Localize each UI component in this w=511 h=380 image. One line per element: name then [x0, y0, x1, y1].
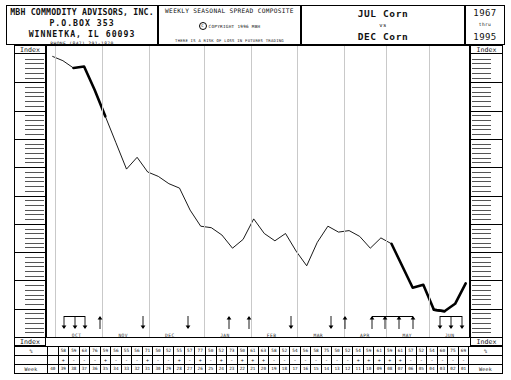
week-cell: 14: [322, 365, 333, 373]
percent-cell: 61: [396, 347, 407, 355]
percent-cell: 60: [438, 347, 449, 355]
scale-minor-tick: [25, 304, 44, 305]
scale-minor-tick: [472, 68, 491, 69]
sign-cell: -: [311, 356, 322, 364]
scale-minor-tick: [25, 332, 44, 333]
seasonal-down-arrow: [61, 316, 67, 329]
percent-cell: 63: [259, 347, 270, 355]
month-label: APR: [360, 333, 370, 338]
scale-minor-tick: [25, 148, 44, 149]
scale-minor-tick: [472, 257, 491, 258]
month-gridline: [102, 46, 103, 337]
scale-minor-tick: [472, 92, 491, 93]
scale-minor-tick: [472, 158, 491, 159]
sign-cell: -: [459, 356, 469, 364]
sign-cell: -: [269, 356, 280, 364]
seasonal-up-arrow: [396, 316, 402, 329]
week-cell: 12: [343, 365, 354, 373]
sign-cell: -: [280, 356, 291, 364]
week-cell: 15: [311, 365, 322, 373]
month-label: JUN: [445, 333, 455, 338]
month-gridline: [344, 46, 345, 337]
scale-minor-tick: [25, 134, 44, 135]
seasonal-arrow-band: OCTNOVDECJANFEBMARAPRMAYJUN: [46, 314, 470, 338]
scale-minor-tick: [472, 247, 491, 248]
scale-minor-tick: [25, 290, 44, 291]
week-cell: 08: [385, 365, 396, 373]
report-title: WEEKLY SEASONAL SPREAD COMPOSITE: [165, 7, 294, 14]
sign-cell: -: [343, 356, 354, 364]
week-cell: 03: [438, 365, 449, 373]
sign-row-label-left: [15, 356, 48, 364]
week-cell: 27: [185, 365, 196, 373]
scale-minor-tick: [25, 115, 44, 116]
scale-minor-tick: [472, 285, 491, 286]
scale-minor-tick: [472, 238, 491, 239]
month-label: MAY: [403, 333, 413, 338]
scale-minor-tick: [25, 129, 44, 130]
scale-major-tick: [471, 196, 502, 197]
scale-minor-tick: [472, 148, 491, 149]
sign-cell: -: [332, 356, 343, 364]
scale-major-tick: [471, 309, 502, 310]
percent-cell: 57: [406, 347, 417, 355]
arrow-group-bracket: [440, 316, 461, 317]
scale-major-tick: [15, 111, 45, 112]
week-cell: 21: [248, 365, 259, 373]
month-label: JAN: [220, 333, 230, 338]
sign-cell: -: [406, 356, 417, 364]
seasonal-up-arrow: [342, 316, 348, 329]
scale-minor-tick: [25, 210, 44, 211]
scale-minor-tick: [25, 295, 44, 296]
percent-cell: 63: [80, 347, 91, 355]
sign-cell: -: [90, 356, 101, 364]
sign-cell: -: [427, 356, 438, 364]
index-scale-left: [14, 53, 46, 338]
scale-minor-tick: [472, 134, 491, 135]
week-cell: 13: [332, 365, 343, 373]
week-cell: 25: [206, 365, 217, 373]
scale-major-tick: [15, 82, 45, 83]
scale-minor-tick: [472, 96, 491, 97]
percent-cell: 71: [143, 347, 154, 355]
sign-cell: +: [396, 356, 407, 364]
scale-minor-tick: [25, 68, 44, 69]
scale-minor-tick: [472, 172, 491, 173]
week-cell: 19: [269, 365, 280, 373]
scale-minor-tick: [25, 257, 44, 258]
percent-cell: 73: [227, 347, 238, 355]
sign-cell: -: [153, 356, 164, 364]
week-cell: 24: [217, 365, 228, 373]
scale-minor-tick: [472, 101, 491, 102]
percent-cells: 5859637659565556715052555777505273506163…: [48, 347, 468, 355]
sign-cell: -: [164, 356, 175, 364]
year-thru-label: thru: [479, 22, 491, 27]
sign-cell: +: [364, 356, 375, 364]
percent-cell: 75: [448, 347, 459, 355]
week-cell: 39: [59, 365, 70, 373]
sign-cell: -: [206, 356, 217, 364]
copyright-icon: C: [199, 22, 207, 30]
composite-line-bold: [392, 244, 445, 311]
week-cell: 20: [259, 365, 270, 373]
scale-major-tick: [15, 196, 45, 197]
percent-cell: 59: [385, 347, 396, 355]
composite-line-thin: [52, 56, 465, 311]
sign-cell: +: [259, 356, 270, 364]
percent-cell: 55: [122, 347, 133, 355]
scale-minor-tick: [25, 318, 44, 319]
percent-cell: [48, 347, 59, 355]
percent-row-label-right: %: [468, 347, 502, 355]
spread-leg-2: DEC Corn: [358, 31, 409, 42]
scale-minor-tick: [25, 313, 44, 314]
sign-row: +---+---+--+-+-+-+++--------+++++------: [15, 356, 502, 365]
seasonal-up-arrow: [226, 316, 232, 329]
week-cell: 05: [417, 365, 428, 373]
risk-disclaimer: THERE IS A RISK OF LOSS IN FUTURES TRADI…: [175, 38, 284, 43]
scale-minor-tick: [472, 276, 491, 277]
scale-minor-tick: [472, 59, 491, 60]
week-cell: 01: [459, 365, 469, 373]
percent-row: % 58596376595655567150525557775052735061…: [15, 347, 502, 356]
percent-cell: 56: [111, 347, 122, 355]
week-row: Week 40393837363534333231302928272625242…: [15, 365, 502, 373]
